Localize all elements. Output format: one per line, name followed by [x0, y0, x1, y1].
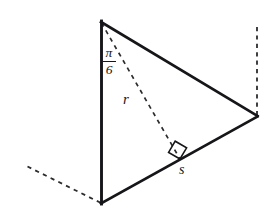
lower-chord-line [101, 117, 258, 204]
radius-label: r [123, 92, 129, 107]
angle-denominator: 6 [99, 62, 119, 77]
left-guide-line [28, 167, 102, 204]
radius-line [102, 23, 181, 159]
arc-length-label: s [179, 163, 184, 177]
geometry-canvas [0, 0, 275, 218]
apex-angle-label: π 6 [99, 46, 119, 77]
angle-numerator: π [99, 46, 119, 61]
geometry-figure: π 6 r s [0, 0, 275, 218]
